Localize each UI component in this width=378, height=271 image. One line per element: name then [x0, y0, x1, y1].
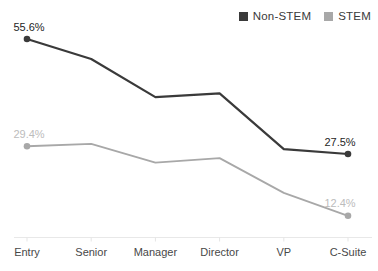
- x-axis-label-manager: Manager: [134, 246, 178, 258]
- non-stem-last-value-label: 27.5%: [324, 136, 355, 148]
- x-axis-label-director: Director: [200, 246, 239, 258]
- x-axis-label-senior: Senior: [75, 246, 107, 258]
- non-stem-first-value-label: 55.6%: [13, 21, 44, 33]
- legend-item-non-stem: Non-STEM: [239, 10, 311, 22]
- stem-swatch-icon: [324, 12, 333, 21]
- x-axis-label-c-suite: C-Suite: [330, 246, 367, 258]
- non-stem-entry-marker: [24, 36, 31, 43]
- non-stem-swatch-icon: [239, 12, 248, 21]
- stem-entry-marker: [24, 143, 31, 150]
- stem-first-value-label: 29.4%: [13, 128, 44, 140]
- non-stem-line: [27, 39, 348, 154]
- x-axis-label-entry: Entry: [14, 246, 40, 258]
- x-axis-label-vp: VP: [276, 246, 291, 258]
- legend: Non-STEM STEM: [239, 10, 371, 22]
- legend-item-stem: STEM: [324, 10, 371, 22]
- stem-last-value-label: 12.4%: [324, 197, 355, 209]
- chart-container: EntrySeniorManagerDirectorVPC-Suite29.4%…: [0, 0, 378, 271]
- line-chart-svg: EntrySeniorManagerDirectorVPC-Suite29.4%…: [0, 0, 378, 271]
- non-stem-c-suite-marker: [345, 151, 352, 158]
- legend-label-non-stem: Non-STEM: [253, 10, 311, 22]
- stem-c-suite-marker: [345, 213, 352, 220]
- legend-label-stem: STEM: [338, 10, 371, 22]
- stem-line: [27, 144, 348, 216]
